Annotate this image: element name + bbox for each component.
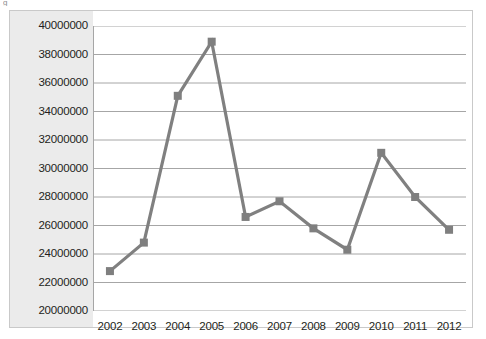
page-artifact-glyph: g xyxy=(3,0,10,6)
data-point-marker xyxy=(242,213,250,221)
x-axis-tick-label: 2009 xyxy=(335,320,360,332)
data-point-marker xyxy=(411,193,419,201)
y-axis-tick-label: 36000000 xyxy=(10,76,88,88)
y-axis-tick-label: 30000000 xyxy=(10,162,88,174)
y-axis-tick-label: 40000000 xyxy=(10,19,88,31)
y-axis-tick-label: 26000000 xyxy=(10,219,88,231)
x-axis-tick-label: 2010 xyxy=(369,320,394,332)
y-axis-tick-label: 28000000 xyxy=(10,190,88,202)
y-axis-tick-label: 20000000 xyxy=(10,304,88,316)
chart-screenshot: g 40000000380000003600000034000000320000… xyxy=(0,0,486,339)
x-axis-tick-label: 2007 xyxy=(267,320,292,332)
x-axis-tick-label: 2006 xyxy=(233,320,258,332)
x-axis-tick-label: 2011 xyxy=(403,320,427,332)
y-axis-tick-label: 32000000 xyxy=(10,133,88,145)
x-axis-tick-label: 2003 xyxy=(131,320,156,332)
data-point-marker xyxy=(106,267,114,275)
data-point-marker xyxy=(208,38,216,46)
x-axis-tick-label: 2008 xyxy=(301,320,326,332)
y-axis-tick-label: 34000000 xyxy=(10,105,88,117)
plot-area xyxy=(93,26,466,311)
y-axis-tick-label: 38000000 xyxy=(10,48,88,60)
x-axis-tick-label: 2004 xyxy=(165,320,190,332)
data-point-marker xyxy=(445,226,453,234)
data-point-marker xyxy=(343,246,351,254)
data-point-marker xyxy=(309,224,317,232)
data-point-marker xyxy=(140,239,148,247)
x-axis-tick-label: 2002 xyxy=(98,320,123,332)
data-point-marker xyxy=(377,149,385,157)
x-axis-tick-label: 2012 xyxy=(437,320,462,332)
data-point-marker xyxy=(174,92,182,100)
series-markers xyxy=(93,26,466,311)
x-axis-tick-label: 2005 xyxy=(199,320,224,332)
chart-frame: 4000000038000000360000003400000032000000… xyxy=(9,10,473,328)
y-axis-tick-label: 22000000 xyxy=(10,276,88,288)
data-point-marker xyxy=(276,197,284,205)
y-axis-tick-label: 24000000 xyxy=(10,247,88,259)
